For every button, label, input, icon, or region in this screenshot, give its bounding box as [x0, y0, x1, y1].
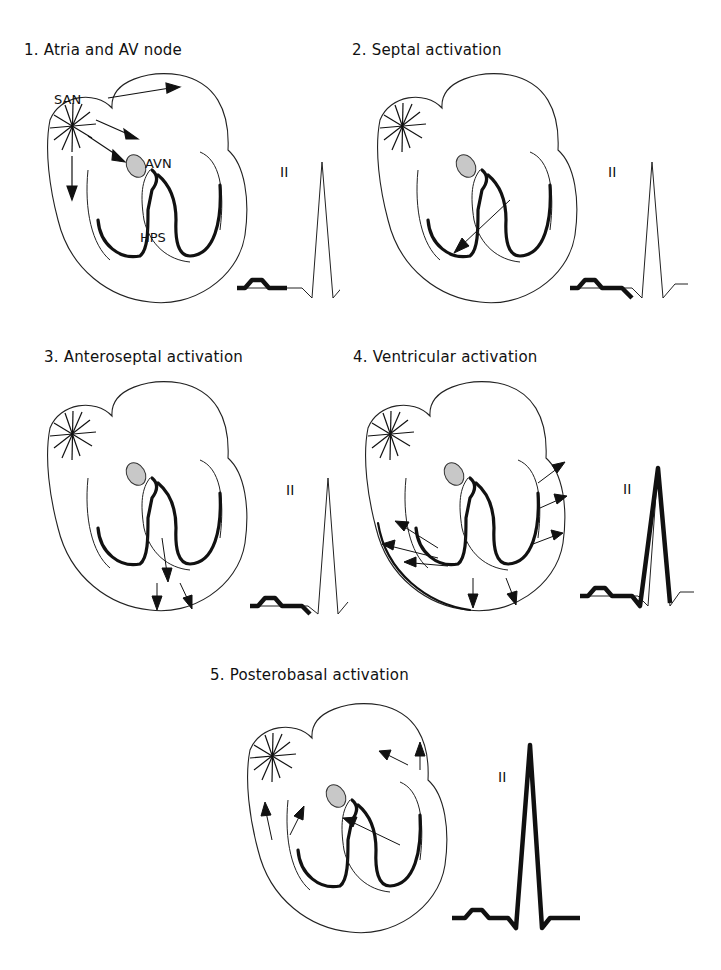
panel-3-title: 3. Anteroseptal activation: [44, 348, 243, 366]
right-bundle: [358, 805, 420, 886]
activation-arrows: [67, 83, 180, 200]
lead-label: II: [498, 769, 506, 785]
ecg-trace: [237, 162, 340, 298]
activated-myocardium: [378, 523, 470, 610]
lead-label: II: [623, 481, 631, 497]
panel-5-diagram: II: [240, 700, 600, 950]
sa-node-star: [50, 411, 96, 460]
left-bundle: [298, 800, 357, 887]
panel-2-diagram: II: [370, 70, 700, 310]
heart-outline: [48, 74, 247, 303]
left-bundle: [98, 478, 157, 565]
heart-outline: [378, 74, 577, 303]
hps-label: HPS: [140, 230, 166, 245]
ecg-highlight: [570, 280, 632, 298]
ecg-trace: [250, 478, 348, 614]
left-bundle: [428, 170, 487, 257]
ecg-highlight: [250, 598, 310, 614]
right-bundle: [476, 483, 538, 564]
right-bundle: [158, 483, 220, 564]
heart-outline: [48, 382, 247, 611]
sa-node-star: [250, 733, 296, 782]
lead-label: II: [608, 164, 616, 180]
panel-3-diagram: II: [40, 378, 350, 628]
lead-label: II: [286, 482, 294, 498]
avn-label: AVN: [145, 156, 172, 171]
san-label: SAN: [54, 92, 81, 107]
right-bundle: [158, 175, 220, 256]
ecg-trace-complete: [452, 745, 580, 928]
sa-node-star: [368, 411, 414, 460]
sa-node-star: [380, 103, 426, 152]
panel-2-title: 2. Septal activation: [352, 41, 502, 59]
ecg-trace: [570, 162, 688, 298]
ecg-trace: [580, 466, 694, 606]
heart-outline: [366, 382, 565, 611]
panel-1-title: 1. Atria and AV node: [24, 41, 182, 59]
lead-label: II: [280, 164, 288, 180]
right-bundle: [488, 175, 550, 256]
septal-arrow: [454, 200, 510, 253]
panel-1-diagram: SAN AVN HPS II: [40, 70, 340, 310]
left-bundle: [416, 478, 475, 565]
ecg-highlight: [237, 280, 287, 288]
panel-4-title: 4. Ventricular activation: [353, 348, 537, 366]
panel-5-title: 5. Posterobasal activation: [210, 666, 409, 684]
anteroseptal-arrows: [152, 538, 192, 610]
panel-4-diagram: II: [358, 378, 698, 628]
sa-node-star: [50, 103, 96, 152]
